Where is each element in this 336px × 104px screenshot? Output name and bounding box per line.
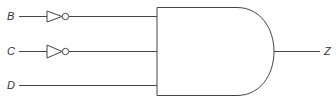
input-label-c: C <box>7 45 15 57</box>
and-gate-icon <box>157 8 274 96</box>
not-gate-b-icon <box>47 11 69 22</box>
output-label-z: Z <box>323 45 332 57</box>
input-label-b: B <box>7 10 14 22</box>
logic-circuit-diagram: B C D Z <box>0 0 336 104</box>
input-label-d: D <box>7 79 15 91</box>
not-gate-c-icon <box>47 45 69 58</box>
